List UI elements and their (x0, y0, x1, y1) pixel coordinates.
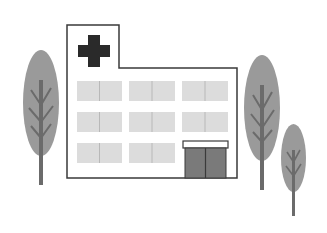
right-tall-tree (244, 55, 280, 190)
hospital-illustration (0, 0, 327, 233)
right-small-tree (281, 124, 306, 216)
left-tree (23, 50, 59, 185)
hospital-building (67, 25, 237, 178)
entrance-door (183, 141, 228, 178)
